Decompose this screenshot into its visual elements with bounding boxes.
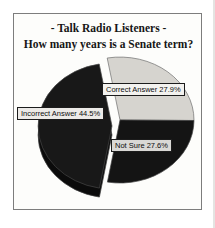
chart-title: - Talk Radio Listeners - How many years … (13, 20, 204, 52)
slice-label-incorrect-answer: Incorrect Answer 44.5% (17, 107, 104, 120)
pie-slice-incorrect-answer (38, 64, 112, 188)
scanned-chart-page: { "title": { "line1": "- Talk Radio List… (0, 0, 215, 228)
slice-label-not-sure: Not Sure 27.6% (111, 139, 172, 152)
slice-label-correct-answer: Correct Answer 27.9% (102, 83, 185, 96)
chart-title-line2: How many years is a Senate term? (13, 36, 204, 52)
chart-title-line1: - Talk Radio Listeners - (13, 20, 204, 36)
